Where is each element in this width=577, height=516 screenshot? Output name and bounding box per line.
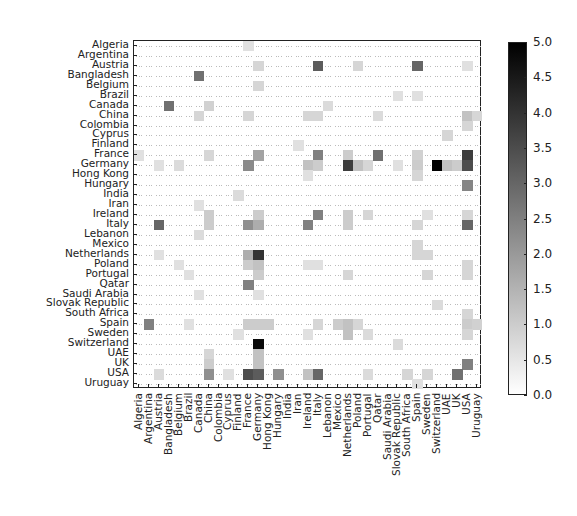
grid-dot	[437, 374, 438, 375]
grid-dot	[288, 145, 289, 146]
grid-dot	[410, 175, 411, 176]
grid-dot	[238, 344, 239, 345]
grid-dot	[365, 46, 366, 47]
grid-dot	[325, 285, 326, 286]
grid-dot	[268, 46, 269, 47]
grid-dot	[315, 275, 316, 276]
grid-dot	[291, 165, 292, 166]
grid-dot	[325, 96, 326, 97]
grid-dot	[236, 126, 237, 127]
grid-dot	[271, 364, 272, 365]
grid-dot	[186, 354, 187, 355]
grid-dot	[315, 364, 316, 365]
grid-dot	[410, 295, 411, 296]
grid-dot	[191, 66, 192, 67]
grid-dot	[136, 56, 137, 57]
grid-dot	[256, 314, 257, 315]
grid-dot	[470, 295, 471, 296]
grid-dot	[457, 354, 458, 355]
grid-dot	[268, 155, 269, 156]
colorbar-tick-label: 4.0	[533, 107, 552, 119]
grid-dot	[368, 364, 369, 365]
grid-dot	[139, 285, 140, 286]
grid-dot	[335, 155, 336, 156]
grid-dot	[435, 285, 436, 286]
grid-dot	[310, 195, 311, 196]
grid-dot	[156, 195, 157, 196]
grid-dot	[405, 215, 406, 216]
grid-dot	[266, 205, 267, 206]
grid-dot	[380, 285, 381, 286]
grid-dot	[209, 384, 210, 385]
grid-dot	[236, 185, 237, 186]
grid-dot	[298, 56, 299, 57]
grid-dot	[221, 304, 222, 305]
grid-dot	[445, 235, 446, 236]
grid-dot	[405, 285, 406, 286]
grid-dot	[186, 76, 187, 77]
grid-dot	[400, 364, 401, 365]
grid-dot	[206, 145, 207, 146]
grid-dot	[427, 165, 428, 166]
x-tick	[426, 384, 427, 388]
grid-dot	[201, 145, 202, 146]
grid-dot	[435, 215, 436, 216]
grid-dot	[191, 215, 192, 216]
grid-dot	[340, 334, 341, 335]
grid-dot	[390, 235, 391, 236]
grid-dot	[219, 304, 220, 305]
grid-dot	[159, 215, 160, 216]
grid-dot	[306, 245, 307, 246]
grid-dot	[455, 126, 456, 127]
grid-dot	[415, 235, 416, 236]
grid-dot	[301, 135, 302, 136]
grid-dot	[360, 175, 361, 176]
grid-dot	[268, 66, 269, 67]
grid-dot	[475, 215, 476, 216]
grid-dot	[378, 76, 379, 77]
grid-dot	[286, 185, 287, 186]
grid-dot	[375, 126, 376, 127]
grid-dot	[291, 354, 292, 355]
grid-dot	[189, 344, 190, 345]
grid-dot	[325, 175, 326, 176]
grid-dot	[141, 86, 142, 87]
grid-dot	[405, 324, 406, 325]
grid-dot	[425, 354, 426, 355]
grid-dot	[355, 285, 356, 286]
grid-dot	[340, 245, 341, 246]
grid-dot	[179, 304, 180, 305]
grid-dot	[149, 215, 150, 216]
grid-dot	[355, 364, 356, 365]
grid-dot	[166, 56, 167, 57]
grid-dot	[407, 275, 408, 276]
grid-dot	[228, 225, 229, 226]
grid-dot	[348, 295, 349, 296]
grid-dot	[298, 46, 299, 47]
grid-dot	[385, 374, 386, 375]
grid-dot	[370, 46, 371, 47]
grid-dot	[355, 304, 356, 305]
grid-dot	[405, 175, 406, 176]
grid-dot	[315, 245, 316, 246]
grid-dot	[430, 165, 431, 166]
grid-dot	[149, 295, 150, 296]
grid-dot	[435, 135, 436, 136]
grid-dot	[328, 255, 329, 256]
grid-dot	[380, 56, 381, 57]
grid-dot	[360, 235, 361, 236]
grid-dot	[261, 106, 262, 107]
grid-dot	[338, 126, 339, 127]
grid-dot	[139, 145, 140, 146]
grid-dot	[281, 56, 282, 57]
grid-dot	[298, 185, 299, 186]
grid-dot	[276, 46, 277, 47]
grid-dot	[318, 295, 319, 296]
grid-dot	[301, 275, 302, 276]
grid-dot	[318, 175, 319, 176]
grid-dot	[450, 155, 451, 156]
grid-dot	[358, 354, 359, 355]
grid-dot	[216, 265, 217, 266]
grid-dot	[437, 205, 438, 206]
grid-dot	[390, 334, 391, 335]
